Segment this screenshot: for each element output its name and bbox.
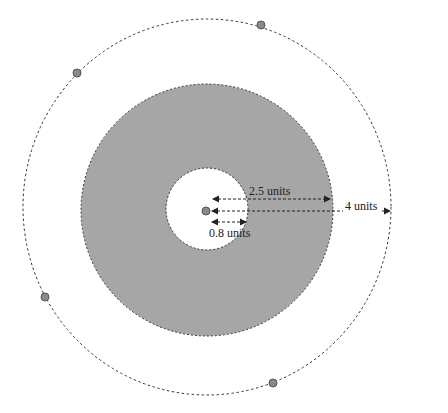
orbit-dot [269,379,277,387]
outer-radius-label: 4 units [345,199,378,213]
orbit-dot [41,293,49,301]
orbit-dot [73,69,81,77]
concentric-circles-diagram: 2.5 units 4 units 0.8 units [0,0,448,413]
inner-radius-label: 0.8 units [209,226,251,240]
annulus-radius-label: 2.5 units [249,184,291,198]
orbit-dot [257,21,265,29]
center-point [202,207,210,215]
